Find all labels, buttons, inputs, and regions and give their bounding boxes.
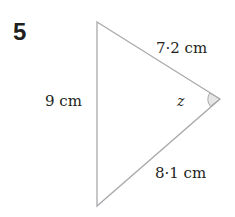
side-label-left: 9 cm [45,92,82,110]
triangle-diagram: 9 cm 7·2 cm 8·1 cm z [0,0,235,217]
angle-label-z: z [176,93,185,109]
side-label-upper: 7·2 cm [156,39,207,57]
diagram-stage: 5 9 cm 7·2 cm 8·1 cm z [0,0,235,217]
side-label-lower: 8·1 cm [155,164,206,182]
